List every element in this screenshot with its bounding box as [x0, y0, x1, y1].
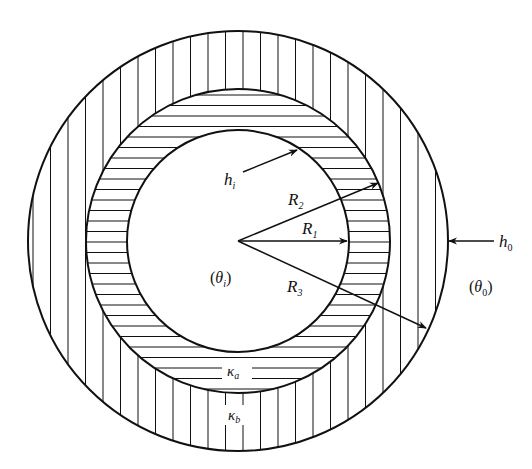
concentric-layers-diagram: hi R2 R1 R3 (θi) h0 (θ0) κa κb — [0, 0, 532, 469]
label-theta-o: (θ0) — [469, 278, 493, 298]
label-h-o: h0 — [499, 232, 513, 253]
